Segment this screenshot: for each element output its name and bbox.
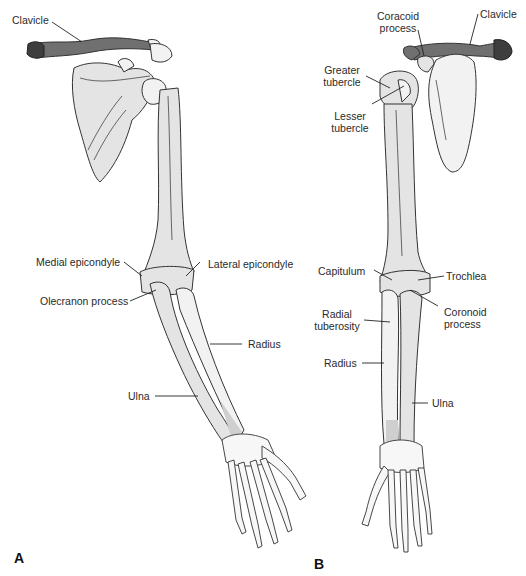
scapula-b — [418, 54, 476, 172]
panel-label-a: A — [14, 550, 24, 566]
label-olecranon-process: Olecranon process — [40, 295, 128, 307]
label-radius-a: Radius — [248, 338, 281, 350]
panel-label-b: B — [314, 556, 324, 572]
panel-a-illustration — [27, 22, 306, 548]
hand-a — [222, 434, 306, 548]
label-radial-tuberosity: Radial tuberosity — [312, 308, 362, 332]
hand-b — [362, 440, 432, 552]
forearm-b — [382, 290, 423, 446]
label-greater-tubercle: Greater tubercle — [320, 64, 364, 88]
label-medial-epicondyle: Medial epicondyle — [36, 256, 120, 268]
label-ulna-b: Ulna — [432, 397, 454, 409]
humerus-b — [380, 71, 430, 296]
label-lateral-epicondyle: Lateral epicondyle — [208, 258, 293, 270]
label-capitulum: Capitulum — [318, 265, 365, 277]
forearm-a — [150, 282, 244, 446]
clavicle-a — [27, 38, 160, 58]
label-radius-b: Radius — [324, 357, 357, 369]
panel-b-illustration — [362, 14, 512, 552]
label-coronoid-process: Coronoid process — [444, 306, 487, 330]
label-coracoid-process: Coracoid process — [368, 10, 428, 34]
humerus-a — [140, 79, 194, 295]
label-clavicle-a: Clavicle — [12, 14, 49, 26]
scapula-a — [72, 44, 172, 183]
label-lesser-tubercle: Lesser tubercle — [328, 110, 372, 134]
upper-limb-skeleton-diagram: Clavicle Medial epicondyle Lateral epico… — [0, 0, 526, 576]
label-ulna-a: Ulna — [128, 390, 150, 402]
label-trochlea: Trochlea — [446, 270, 486, 282]
label-clavicle-b: Clavicle — [480, 8, 517, 20]
